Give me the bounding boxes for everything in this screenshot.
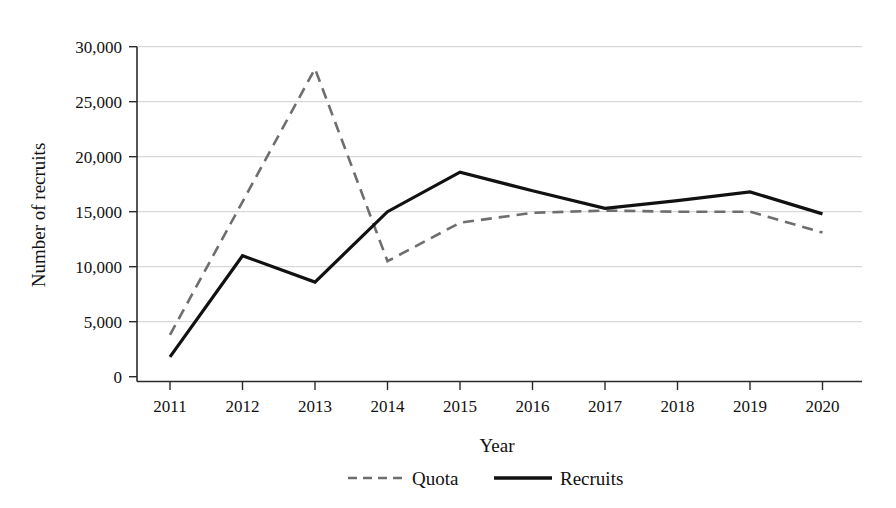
chart-figure: 30,000 25,000 20,000 15,000 10,000 5,000… — [0, 0, 896, 508]
x-tick-label-2019: 2019 — [733, 397, 767, 416]
legend-label-recruits: Recruits — [560, 468, 623, 489]
x-tick-label-2011: 2011 — [153, 397, 186, 416]
y-tick-label-0: 0 — [114, 368, 123, 387]
y-tick-label-15000: 15,000 — [75, 203, 122, 222]
x-tick-label-2013: 2013 — [298, 397, 332, 416]
y-tick-label-25000: 25,000 — [75, 93, 122, 112]
legend-label-quota: Quota — [412, 468, 459, 489]
chart-background — [0, 0, 896, 508]
x-tick-label-2012: 2012 — [226, 397, 260, 416]
x-tick-label-2014: 2014 — [371, 397, 406, 416]
line-chart-svg: 30,000 25,000 20,000 15,000 10,000 5,000… — [0, 0, 896, 508]
x-axis-title: Year — [479, 435, 515, 456]
x-tick-label-2017: 2017 — [588, 397, 623, 416]
x-tick-label-2020: 2020 — [806, 397, 840, 416]
x-tick-label-2015: 2015 — [443, 397, 477, 416]
y-tick-label-30000: 30,000 — [75, 38, 122, 57]
x-tick-label-2018: 2018 — [661, 397, 695, 416]
y-tick-label-20000: 20,000 — [75, 148, 122, 167]
y-tick-label-5000: 5,000 — [84, 313, 122, 332]
y-tick-label-10000: 10,000 — [75, 258, 122, 277]
x-tick-label-2016: 2016 — [516, 397, 550, 416]
y-axis-title: Number of recruits — [28, 143, 49, 288]
